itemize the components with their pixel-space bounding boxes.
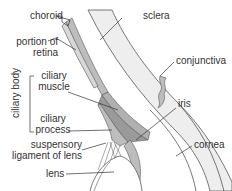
label-retina-line2: retina bbox=[12, 47, 58, 58]
label-ciliary-process-line1: ciliary bbox=[34, 113, 72, 124]
label-suspensory-line1: suspensory bbox=[6, 139, 82, 150]
diagram-illustration bbox=[0, 0, 232, 191]
eye-ciliary-diagram: choroid sclera portion of retina conjunc… bbox=[0, 0, 232, 191]
label-choroid: choroid bbox=[30, 10, 63, 21]
label-ciliary-muscle-line2: muscle bbox=[36, 81, 72, 92]
label-suspensory-ligament: suspensory ligament of lens bbox=[6, 139, 82, 161]
label-lens: lens bbox=[46, 168, 64, 179]
label-ciliary-process: ciliary process bbox=[34, 113, 72, 135]
label-ciliary-muscle: ciliary muscle bbox=[36, 70, 72, 92]
label-ciliary-body: ciliary body bbox=[10, 68, 21, 118]
label-portion-of-retina: portion of retina bbox=[12, 36, 58, 58]
label-cornea: cornea bbox=[194, 139, 225, 150]
label-iris: iris bbox=[178, 98, 191, 109]
label-retina-line1: portion of bbox=[12, 36, 58, 47]
label-sclera: sclera bbox=[143, 10, 170, 21]
label-ciliary-muscle-line1: ciliary bbox=[36, 70, 72, 81]
label-conjunctiva: conjunctiva bbox=[176, 55, 226, 66]
label-suspensory-line2: ligament of lens bbox=[6, 150, 82, 161]
label-ciliary-process-line2: process bbox=[34, 124, 72, 135]
